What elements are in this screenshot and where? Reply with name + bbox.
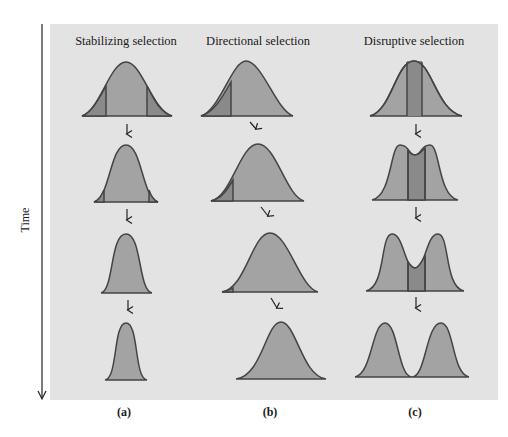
sublabel-a: (a) — [117, 405, 131, 420]
selection-diagram — [0, 0, 508, 437]
arrow-b3 — [271, 298, 277, 308]
stabilizing-curve-3 — [101, 234, 152, 293]
disruptive-curve-1 — [370, 61, 462, 116]
stabilizing-curve-2 — [94, 145, 158, 202]
directional-curve-2 — [211, 144, 304, 201]
sublabel-b: (b) — [263, 405, 278, 420]
directional-curve-3 — [222, 233, 318, 292]
arrow-b1 — [250, 122, 256, 129]
disruptive-curve-4 — [355, 323, 469, 377]
directional-curve-1 — [201, 61, 293, 116]
disruptive-curve-2 — [372, 145, 458, 200]
sublabel-c: (c) — [408, 405, 421, 420]
arrow-b2 — [261, 207, 268, 216]
stabilizing-curve-1 — [82, 62, 172, 116]
directional-curve-4 — [236, 322, 326, 379]
stabilizing-curve-4 — [105, 323, 147, 380]
disruptive-curve-3 — [366, 234, 464, 291]
